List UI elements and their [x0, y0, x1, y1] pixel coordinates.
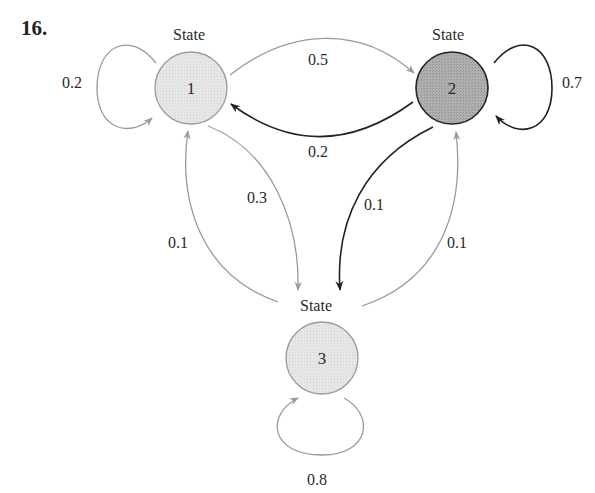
probability-label: 0.1: [447, 234, 467, 251]
state-heading: State: [300, 297, 332, 314]
state-label: 1: [187, 79, 196, 98]
probability-label: 0.5: [308, 51, 328, 68]
transition-2-to-3: 0.1: [339, 127, 433, 290]
state-label: 3: [318, 349, 327, 368]
probability-label: 0.1: [168, 234, 188, 251]
self-loop-arrow-icon: [97, 45, 156, 128]
state-1-node: State 1: [155, 26, 227, 124]
state-heading: State: [173, 26, 205, 43]
arrow-icon: [186, 131, 278, 302]
transition-1-to-2: 0.5: [230, 38, 414, 75]
transition-2-to-2: 0.7: [494, 45, 582, 129]
probability-label: 0.1: [364, 196, 384, 213]
state-heading: State: [432, 26, 464, 43]
arrow-icon: [339, 127, 433, 290]
self-loop-arrow-icon: [494, 45, 552, 129]
probability-label: 0.2: [62, 74, 82, 91]
self-loop-arrow-icon: [277, 398, 363, 455]
transition-3-to-1: 0.1: [168, 131, 278, 302]
probability-label: 0.7: [562, 74, 582, 91]
probability-label: 0.2: [308, 143, 328, 160]
arrow-icon: [231, 102, 413, 137]
markov-state-diagram: 0.2 0.5 0.2 0.7 0.3 0.1 0.1 0.1 0.8: [0, 0, 595, 493]
transition-3-to-2: 0.1: [362, 132, 467, 306]
transition-1-to-1: 0.2: [62, 45, 156, 128]
state-label: 2: [448, 79, 457, 98]
transition-3-to-3: 0.8: [277, 398, 363, 488]
arrow-icon: [362, 132, 458, 306]
probability-label: 0.8: [307, 471, 327, 488]
transition-2-to-1: 0.2: [231, 102, 413, 160]
state-3-node: State 3: [286, 297, 358, 394]
probability-label: 0.3: [247, 189, 267, 206]
state-2-node: State 2: [416, 26, 488, 124]
